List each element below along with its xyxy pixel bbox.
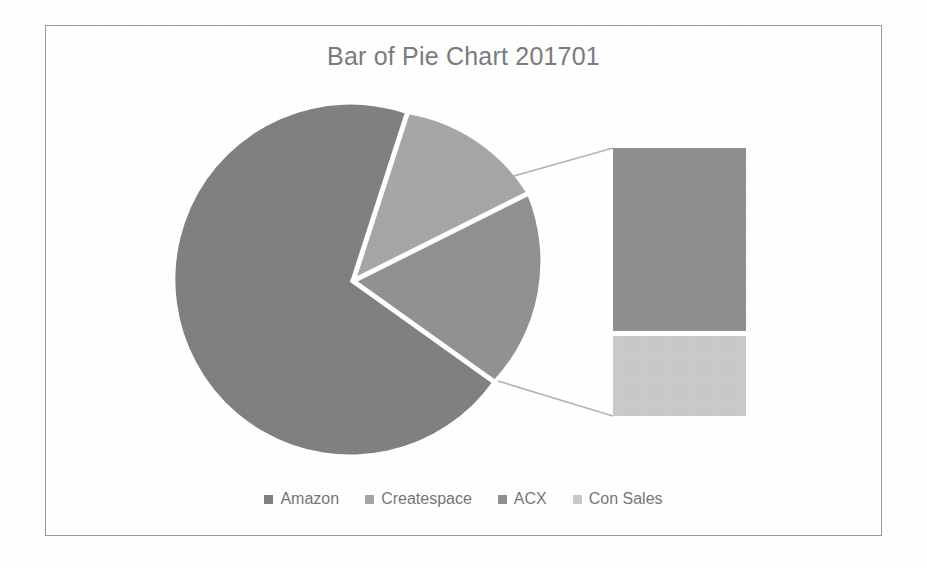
chart-frame: Bar of Pie Chart 201701 <box>45 25 882 536</box>
legend-item-createspace[interactable]: Createspace <box>365 491 472 507</box>
legend-item-acx[interactable]: ACX <box>498 491 547 507</box>
legend-swatch-acx <box>498 495 507 504</box>
legend-label-acx: ACX <box>514 491 547 507</box>
legend-swatch-amazon <box>264 495 273 504</box>
legend-swatch-createspace <box>365 495 374 504</box>
bar-segment-acx[interactable] <box>613 148 746 331</box>
legend-swatch-con-sales <box>573 495 582 504</box>
bar-group <box>613 148 746 416</box>
legend-label-amazon: Amazon <box>280 491 339 507</box>
bar-segment-con-sales[interactable] <box>613 336 746 416</box>
legend-label-createspace: Createspace <box>381 491 472 507</box>
legend-item-con-sales[interactable]: Con Sales <box>573 491 663 507</box>
legend-label-con-sales: Con Sales <box>589 491 663 507</box>
chart-legend: Amazon Createspace ACX Con Sales <box>46 491 881 507</box>
legend-item-amazon[interactable]: Amazon <box>264 491 339 507</box>
bar-of-pie-plot <box>46 26 883 537</box>
bar-segment-divider <box>613 331 746 336</box>
connector-line-bottom <box>498 381 613 416</box>
